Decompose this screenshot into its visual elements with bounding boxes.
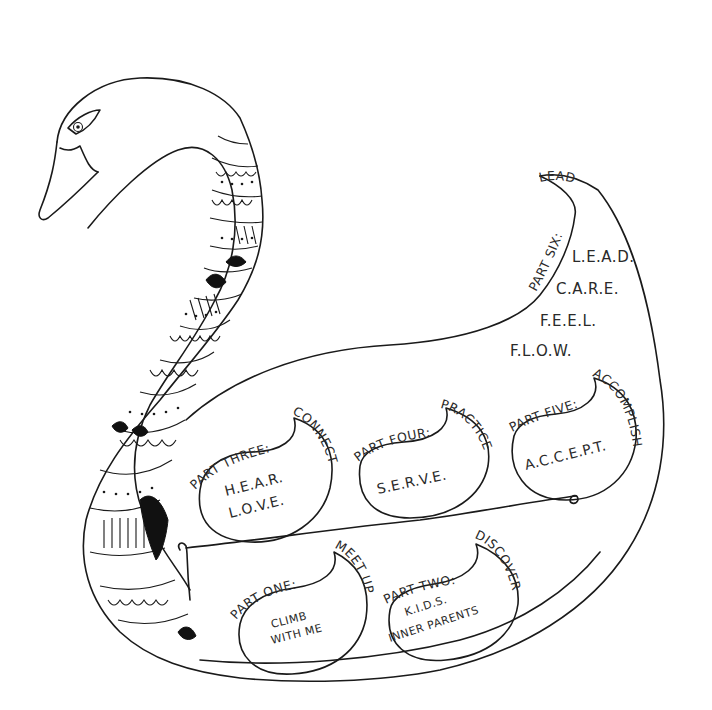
part-six-item-3: F.E.E.L. [540, 312, 597, 330]
part-five-line-1: A.C.C.E.P.T. [523, 437, 608, 473]
part-four-theme: PRACTICE [439, 396, 495, 452]
part-four-line-1: S.E.R.V.E. [375, 467, 448, 497]
swan-roadmap-illustration: LEAD PART SIX: L.E.A.D. C.A.R.E. F.E.E.L… [0, 0, 712, 710]
part-six-item-1: L.E.A.D. [572, 248, 634, 266]
part-five-heading: PART FIVE: [506, 396, 579, 435]
top-label: LEAD [538, 168, 578, 186]
part-four-heading: PART FOUR: [351, 425, 432, 465]
part-two-theme: DISCOVER [473, 527, 524, 592]
part-five-theme: ACCOMPLISH [591, 365, 646, 448]
neck-pattern [90, 136, 262, 639]
part-three-theme: CONNECT [291, 403, 341, 465]
part-six-item-2: C.A.R.E. [556, 280, 619, 298]
part-one-theme: MEET UP [333, 537, 377, 595]
part-six-item-4: F.L.O.W. [510, 342, 572, 360]
swan-outline [39, 78, 664, 681]
